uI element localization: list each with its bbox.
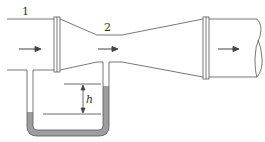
diverging-cone xyxy=(122,19,203,77)
venturi-diagram: 1 2 h xyxy=(0,0,265,142)
section-2-label: 2 xyxy=(104,21,111,34)
arrow-up-icon xyxy=(81,85,85,90)
venturi-svg: 1 2 h xyxy=(0,0,265,142)
arrow-down-icon xyxy=(81,108,85,113)
section-1-label: 1 xyxy=(22,5,29,18)
manometer-fluid xyxy=(27,86,109,136)
converging-cone xyxy=(60,19,97,70)
height-label: h xyxy=(86,93,93,106)
throat xyxy=(97,35,122,70)
inlet-flange xyxy=(54,17,60,72)
outlet-flange xyxy=(203,17,209,79)
arrow-right-icon xyxy=(19,47,41,52)
arrow-right-icon xyxy=(98,47,118,52)
manometer-tube xyxy=(27,70,109,136)
arrow-right-icon xyxy=(218,47,239,52)
inlet-pipe xyxy=(7,19,54,70)
